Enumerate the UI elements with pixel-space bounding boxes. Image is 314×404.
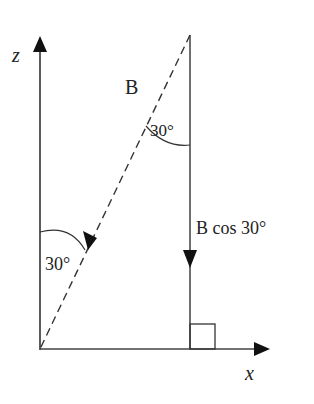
component-line bbox=[183, 35, 197, 349]
x-axis-label: x bbox=[244, 362, 254, 384]
component-label: B cos 30° bbox=[196, 218, 266, 238]
right-angle-marker bbox=[190, 324, 215, 349]
z-axis-label: z bbox=[11, 44, 20, 66]
bottom-angle-arc bbox=[40, 230, 85, 250]
component-arrowhead-icon bbox=[183, 250, 197, 268]
vector-diagram: z x B cos 30° B 30° 30° bbox=[0, 0, 314, 404]
z-axis bbox=[33, 36, 47, 350]
top-angle-label: 30° bbox=[150, 121, 174, 140]
x-axis bbox=[40, 342, 270, 356]
vector-b bbox=[40, 35, 190, 349]
vector-b-label: B bbox=[125, 76, 138, 98]
bottom-angle-label: 30° bbox=[45, 254, 70, 274]
x-axis-arrowhead-icon bbox=[254, 342, 270, 356]
z-axis-arrowhead-icon bbox=[33, 36, 47, 52]
vector-b-arrowhead-icon bbox=[83, 231, 97, 250]
